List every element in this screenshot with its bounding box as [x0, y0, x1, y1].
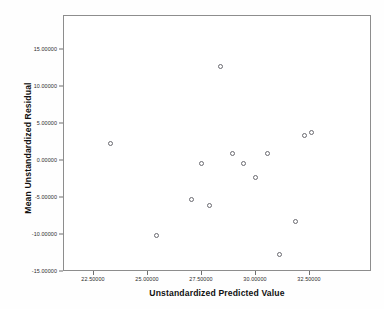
y-axis-tick-label: 5.00000	[37, 120, 57, 126]
y-axis-tick-label: 15.00000	[34, 46, 57, 52]
y-axis-tick-label: -5.00000	[35, 194, 57, 200]
data-point	[265, 151, 270, 156]
y-axis-tick-label: 10.00000	[34, 83, 57, 89]
x-axis-tick-label: 27.50000	[189, 276, 212, 282]
data-point	[230, 151, 235, 156]
data-point	[108, 141, 113, 146]
x-axis-tick-label: 25.00000	[135, 276, 158, 282]
scatter-plot-figure: Mean Unstandardized Residual Unstandardi…	[0, 0, 384, 309]
x-axis-tick-mark	[93, 271, 94, 275]
y-axis-tick-label: -10.00000	[32, 231, 57, 237]
y-axis-tick-mark	[59, 49, 63, 50]
data-point	[309, 130, 314, 135]
y-axis-tick-mark	[59, 123, 63, 124]
x-axis-tick-label: 30.00000	[243, 276, 266, 282]
data-point	[207, 203, 212, 208]
data-point	[277, 252, 282, 257]
y-axis-title: Mean Unstandardized Residual	[23, 58, 33, 238]
y-axis-tick-label: 0.00000	[37, 157, 57, 163]
y-axis-tick-label: -15.00000	[32, 268, 57, 274]
data-point	[199, 161, 204, 166]
x-axis-tick-mark	[309, 271, 310, 275]
y-axis-tick-mark	[59, 271, 63, 272]
y-axis-tick-mark	[59, 160, 63, 161]
x-axis-tick-label: 22.50000	[81, 276, 104, 282]
data-point	[302, 133, 307, 138]
x-axis-tick-mark	[147, 271, 148, 275]
data-point	[218, 64, 223, 69]
plot-area	[63, 15, 371, 271]
y-axis-tick-mark	[59, 234, 63, 235]
data-point	[189, 197, 194, 202]
data-point	[241, 161, 246, 166]
data-point	[293, 219, 298, 224]
data-point	[154, 233, 159, 238]
x-axis-title: Unstandardized Predicted Value	[63, 288, 371, 298]
y-axis-tick-mark	[59, 197, 63, 198]
y-axis-tick-mark	[59, 86, 63, 87]
data-point	[253, 175, 258, 180]
x-axis-tick-mark	[201, 271, 202, 275]
x-axis-tick-mark	[255, 271, 256, 275]
x-axis-tick-label: 32.50000	[297, 276, 320, 282]
